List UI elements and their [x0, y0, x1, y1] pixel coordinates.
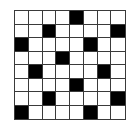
grid-cell-empty[interactable]: [43, 11, 57, 25]
grid-cell-empty[interactable]: [56, 79, 70, 93]
grid-cell-empty[interactable]: [56, 38, 70, 52]
grid-cell-empty[interactable]: [111, 52, 125, 66]
grid-cell-empty[interactable]: [15, 25, 29, 39]
grid-cell-filled[interactable]: [15, 106, 29, 120]
grid-cell-empty[interactable]: [43, 65, 57, 79]
grid-cell-empty[interactable]: [29, 79, 43, 93]
grid-cell-empty[interactable]: [111, 65, 125, 79]
grid-cell-empty[interactable]: [98, 92, 112, 106]
grid-cell-empty[interactable]: [29, 25, 43, 39]
grid-cell-empty[interactable]: [98, 106, 112, 120]
grid-cell-empty[interactable]: [98, 79, 112, 93]
grid-cell-empty[interactable]: [98, 52, 112, 66]
grid-cell-filled[interactable]: [70, 79, 84, 93]
grid-cell-empty[interactable]: [84, 92, 98, 106]
grid-cell-empty[interactable]: [98, 38, 112, 52]
grid-cell-empty[interactable]: [29, 106, 43, 120]
grid-cell-empty[interactable]: [98, 25, 112, 39]
grid-cell-empty[interactable]: [29, 52, 43, 66]
grid-cell-empty[interactable]: [56, 65, 70, 79]
grid-cell-empty[interactable]: [111, 106, 125, 120]
grid-cell-filled[interactable]: [70, 11, 84, 25]
grid-cell-filled[interactable]: [98, 65, 112, 79]
grid-cell-empty[interactable]: [56, 106, 70, 120]
grid-cell-filled[interactable]: [43, 25, 57, 39]
grid-cell-empty[interactable]: [70, 65, 84, 79]
grid-cell-empty[interactable]: [70, 52, 84, 66]
grid-cell-filled[interactable]: [15, 38, 29, 52]
grid-cell-empty[interactable]: [98, 11, 112, 25]
grid-cell-empty[interactable]: [111, 11, 125, 25]
grid-cell-empty[interactable]: [15, 52, 29, 66]
grid-cell-empty[interactable]: [29, 11, 43, 25]
grid-cell-empty[interactable]: [70, 25, 84, 39]
grid-cell-empty[interactable]: [56, 92, 70, 106]
grid-cell-filled[interactable]: [56, 52, 70, 66]
grid-cell-empty[interactable]: [29, 92, 43, 106]
grid-cell-filled[interactable]: [84, 38, 98, 52]
grid-board: [14, 10, 126, 120]
grid-cell-empty[interactable]: [84, 11, 98, 25]
grid-cell-filled[interactable]: [29, 65, 43, 79]
grid-cell-empty[interactable]: [56, 25, 70, 39]
grid-cell-empty[interactable]: [111, 38, 125, 52]
grid-cell-empty[interactable]: [15, 11, 29, 25]
grid-cell-filled[interactable]: [111, 25, 125, 39]
grid-cell-empty[interactable]: [84, 25, 98, 39]
grid-cell-empty[interactable]: [43, 38, 57, 52]
grid-cell-empty[interactable]: [29, 38, 43, 52]
grid-cell-empty[interactable]: [84, 52, 98, 66]
grid-cell-filled[interactable]: [84, 106, 98, 120]
grid-cell-empty[interactable]: [56, 11, 70, 25]
grid-cell-empty[interactable]: [111, 79, 125, 93]
grid-cell-empty[interactable]: [43, 106, 57, 120]
grid-cell-empty[interactable]: [15, 65, 29, 79]
grid-cell-empty[interactable]: [43, 52, 57, 66]
grid-cell-empty[interactable]: [70, 106, 84, 120]
grid-cell-empty[interactable]: [84, 65, 98, 79]
grid-cell-empty[interactable]: [43, 79, 57, 93]
grid-cell-filled[interactable]: [43, 92, 57, 106]
grid-cell-filled[interactable]: [111, 92, 125, 106]
grid-cell-empty[interactable]: [70, 92, 84, 106]
grid-cell-empty[interactable]: [15, 79, 29, 93]
grid-cell-empty[interactable]: [70, 38, 84, 52]
grid-cell-empty[interactable]: [84, 79, 98, 93]
grid-cell-empty[interactable]: [15, 92, 29, 106]
